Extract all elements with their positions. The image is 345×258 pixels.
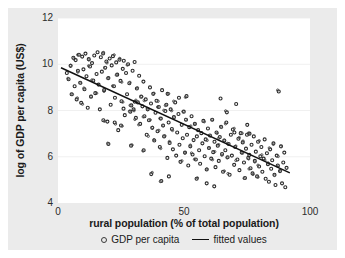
data-point bbox=[246, 123, 249, 126]
data-point bbox=[131, 69, 134, 72]
data-point bbox=[136, 87, 138, 89]
data-point bbox=[219, 97, 222, 100]
data-point bbox=[283, 151, 286, 154]
legend-item-fitted-values: fitted values bbox=[192, 234, 266, 245]
data-point bbox=[108, 57, 111, 60]
data-point bbox=[86, 106, 89, 109]
x-tick-label: 100 bbox=[302, 207, 319, 217]
data-point bbox=[96, 51, 99, 54]
data-point bbox=[194, 123, 196, 125]
data-point bbox=[198, 149, 201, 152]
data-point bbox=[264, 177, 267, 180]
data-point bbox=[82, 68, 85, 71]
data-point bbox=[115, 61, 118, 64]
x-axis-title: rural population (% of total population) bbox=[58, 217, 310, 229]
data-point bbox=[186, 133, 189, 136]
data-point bbox=[176, 131, 179, 134]
data-point bbox=[173, 116, 175, 118]
data-point bbox=[260, 146, 263, 149]
data-point bbox=[113, 96, 116, 99]
data-point bbox=[123, 114, 126, 117]
data-point bbox=[279, 145, 281, 147]
data-point bbox=[201, 142, 204, 145]
data-point bbox=[273, 174, 275, 176]
data-point bbox=[175, 154, 178, 157]
data-point bbox=[233, 163, 236, 166]
data-point bbox=[95, 72, 98, 75]
data-point bbox=[133, 60, 136, 63]
data-point bbox=[206, 127, 209, 130]
data-point bbox=[270, 167, 273, 170]
data-point bbox=[281, 182, 284, 185]
y-tick-label: 12 bbox=[42, 13, 53, 23]
data-point bbox=[195, 135, 198, 138]
data-point bbox=[122, 107, 125, 110]
data-point bbox=[128, 110, 130, 112]
data-point bbox=[192, 139, 195, 142]
data-point bbox=[142, 80, 145, 83]
data-point bbox=[80, 82, 82, 84]
data-point bbox=[263, 138, 266, 141]
data-point bbox=[164, 135, 166, 137]
y-tick-label: 8 bbox=[47, 106, 53, 116]
data-point bbox=[153, 92, 155, 94]
data-point bbox=[187, 164, 190, 167]
data-point bbox=[211, 119, 213, 121]
data-point bbox=[109, 103, 112, 106]
data-point bbox=[238, 169, 241, 172]
data-point bbox=[242, 161, 245, 164]
data-point bbox=[122, 59, 125, 62]
line-marker-icon bbox=[192, 239, 209, 240]
x-tick-label: 50 bbox=[178, 207, 189, 217]
y-tick-label: 6 bbox=[47, 152, 53, 162]
data-point bbox=[84, 52, 87, 55]
data-point bbox=[261, 170, 264, 173]
data-point bbox=[70, 64, 72, 66]
data-point bbox=[213, 185, 216, 188]
chart-legend: GDP per capita fitted values bbox=[58, 234, 310, 245]
data-point bbox=[184, 152, 186, 154]
data-point bbox=[250, 143, 253, 146]
data-point bbox=[166, 156, 169, 159]
data-point bbox=[85, 75, 88, 78]
plot-area bbox=[58, 18, 310, 203]
data-point bbox=[271, 159, 274, 162]
data-point bbox=[177, 112, 180, 115]
data-point bbox=[147, 135, 149, 137]
data-point bbox=[91, 62, 94, 65]
legend-label-gdp-per-capita: GDP per capita bbox=[111, 234, 179, 245]
scatter-plot-svg bbox=[58, 18, 310, 203]
data-point bbox=[224, 149, 227, 152]
data-point bbox=[284, 186, 287, 189]
data-point bbox=[126, 93, 129, 96]
y-tick-label: 10 bbox=[42, 59, 53, 69]
scatter-points bbox=[65, 51, 288, 189]
data-point bbox=[233, 131, 236, 134]
data-point bbox=[265, 152, 268, 155]
data-point bbox=[104, 67, 106, 69]
data-point bbox=[117, 129, 120, 132]
x-tick-label: 0 bbox=[55, 207, 61, 217]
data-point bbox=[65, 72, 68, 75]
data-point bbox=[181, 137, 184, 140]
data-point bbox=[141, 95, 143, 97]
y-axis-title: log of GDP per capita (US$) bbox=[14, 18, 28, 203]
data-point bbox=[252, 135, 255, 138]
data-point bbox=[285, 166, 288, 169]
data-point bbox=[106, 120, 109, 123]
data-point bbox=[267, 180, 270, 183]
data-point bbox=[178, 143, 181, 146]
data-point bbox=[223, 139, 225, 141]
data-point bbox=[74, 59, 77, 62]
data-point bbox=[208, 147, 210, 149]
data-point bbox=[88, 59, 90, 61]
data-point bbox=[100, 70, 103, 73]
data-point bbox=[206, 168, 208, 170]
data-point bbox=[205, 182, 208, 185]
data-point bbox=[167, 121, 170, 124]
plot-wrapper: log of GDP per capita (US$) 4681012 0501… bbox=[58, 18, 310, 203]
data-point bbox=[214, 166, 217, 169]
circle-marker-icon bbox=[101, 237, 107, 243]
data-point bbox=[182, 110, 184, 112]
data-point bbox=[177, 96, 180, 99]
